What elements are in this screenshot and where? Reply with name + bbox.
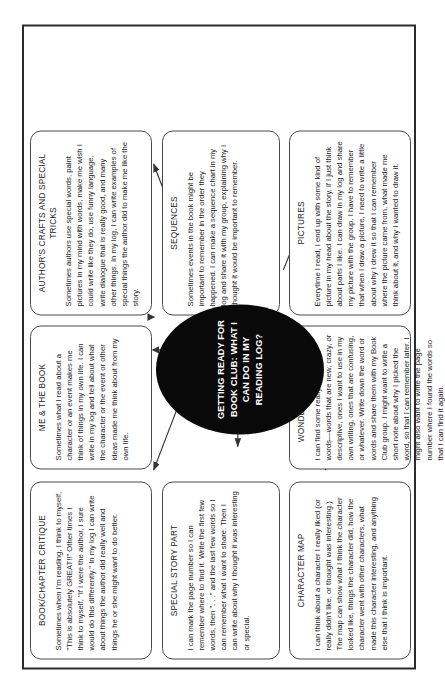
node-body: Sometimes what I read about a character … [52, 335, 130, 461]
node-body: Sometimes events in the book might be im… [184, 140, 240, 307]
diagram-canvas: GETTING READY FOR BOOK CLUB: WHAT I CAN … [24, 27, 414, 668]
node-book-chapter-critique: BOOK/CHAPTER CRITIQUE Sometimes when I'm… [30, 482, 152, 660]
node-authors-crafts: AUTHOR'S CRAFTS AND SPECIAL TRICKS Somet… [30, 131, 152, 316]
node-body: I can find some really wonderful words—w… [311, 335, 445, 461]
center-node: GETTING READY FOR BOOK CLUB: WHAT I CAN … [156, 305, 324, 435]
node-special-story-part: SPECIAL STORY PART I can mark the page n… [162, 482, 280, 660]
rotated-canvas: GETTING READY FOR BOOK CLUB: WHAT I CAN … [22, 25, 416, 670]
node-heading: AUTHOR'S CRAFTS AND SPECIAL TRICKS [37, 140, 58, 307]
node-body: Everytime I read, I end up with some kin… [311, 140, 401, 307]
node-sequences: SEQUENCES Sometimes events in the book m… [162, 131, 280, 316]
node-heading: SPECIAL STORY PART [169, 491, 180, 651]
node-body: Sometimes when I'm reading, I think to m… [52, 491, 119, 651]
diagram-frame: GETTING READY FOR BOOK CLUB: WHAT I CAN … [22, 25, 416, 670]
node-character-map: CHARACTER MAP I can think about a charac… [289, 482, 411, 660]
node-pictures: PICTURES Everytime I read, I end up with… [289, 131, 411, 316]
node-heading: BOOK/CHAPTER CRITIQUE [37, 491, 48, 651]
node-body: Sometimes authors use special words, pai… [63, 140, 141, 307]
node-me-and-the-book: ME & THE BOOK Sometimes what I read abou… [30, 326, 152, 470]
node-heading: PICTURES [296, 140, 307, 307]
node-body: I can mark the page number so I can reme… [184, 491, 251, 651]
center-node-label: GETTING READY FOR BOOK CLUB: WHAT I CAN … [215, 317, 265, 423]
node-body: I can think about a character I really l… [311, 491, 389, 651]
node-heading: SEQUENCES [169, 140, 180, 307]
node-heading: ME & THE BOOK [37, 335, 48, 461]
node-heading: CHARACTER MAP [296, 491, 307, 651]
